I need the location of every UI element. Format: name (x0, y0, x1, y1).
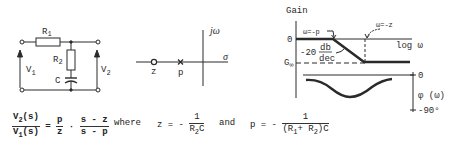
where-label: where (114, 118, 141, 128)
zero-pole-fraction: s - z s - p (80, 115, 109, 138)
slope-den: dec (319, 54, 335, 64)
real-axis-label: σ (223, 51, 229, 62)
slope-annotation-arrow (336, 49, 344, 53)
phase-axis-label: φ (ω) (418, 91, 445, 101)
gain-axis-label: Gain (286, 6, 308, 16)
resistor-r2 (67, 50, 75, 70)
lhs-fraction: V2(s) V1(s) (12, 112, 40, 141)
zero-definition: z = - 1 R2C (157, 112, 204, 138)
output-terminal-bottom (96, 88, 100, 92)
and-label: and (219, 118, 235, 128)
resistor-r1 (36, 38, 60, 46)
equals-sign: = (45, 122, 50, 132)
v1-label: V1 (26, 65, 36, 77)
gain-zero-tick: 0 (287, 35, 292, 45)
phase-curve (306, 79, 392, 97)
phase-zero-tick: 0 (418, 71, 423, 81)
input-terminal-top (20, 40, 24, 44)
pole-definition-fraction: 1 (R1+ R2)C (282, 112, 328, 138)
zero-marker (151, 59, 156, 64)
phase-min-tick: -90° (418, 106, 440, 116)
slope-num: db (320, 43, 331, 53)
input-terminal-bottom (20, 88, 24, 92)
pole-definition: p = - 1 (R1+ R2)C (250, 112, 329, 138)
v2-label: V2 (101, 65, 111, 77)
slope-value: -20 (300, 48, 316, 58)
r1-label: R1 (42, 27, 52, 38)
g-inf-label: G∞ (284, 58, 294, 69)
imag-axis-label: jω (208, 25, 220, 36)
pole-label: p (178, 68, 183, 78)
zero-label: z (151, 67, 156, 77)
zero-definition-fraction: 1 R2C (189, 112, 204, 138)
c-label: C (55, 76, 61, 86)
gain-fraction: p z (56, 115, 63, 138)
pole-annotation: ω=-p (303, 28, 320, 36)
multiply-dot: · (69, 122, 74, 132)
transfer-function-equation: V2(s) V1(s) = p z · s - z s - p (12, 112, 109, 141)
x-axis-label: log ω (396, 41, 424, 51)
output-terminal-top (96, 40, 100, 44)
r2-label: R2 (53, 55, 63, 66)
zero-annotation: ω=-z (376, 21, 393, 29)
